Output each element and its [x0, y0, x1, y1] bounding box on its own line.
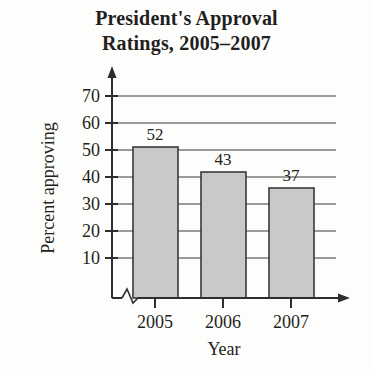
bar-value-2007: 37 — [261, 167, 321, 184]
x-axis-arrow — [338, 294, 350, 303]
x-tick-marks — [155, 298, 291, 308]
bar-value-2006: 43 — [193, 151, 253, 168]
bar-chart-figure: President's Approval Ratings, 2005–2007 — [0, 0, 373, 370]
y-axis-arrow — [108, 66, 117, 78]
ytick-label-40: 40 — [56, 168, 100, 186]
ytick-label-60: 60 — [56, 114, 100, 132]
y-axis-label: Percent approving — [39, 98, 57, 278]
ytick-label-70: 70 — [56, 87, 100, 105]
bar-2006 — [201, 172, 246, 298]
x-axis-label: Year — [112, 340, 336, 358]
ytick-label-30: 30 — [56, 195, 100, 213]
bar-value-2005: 52 — [125, 126, 185, 143]
ytick-label-50: 50 — [56, 141, 100, 159]
bar-2007 — [269, 188, 314, 298]
ytick-label-20: 20 — [56, 222, 100, 240]
xtick-label-2007: 2007 — [251, 313, 331, 331]
bar-2005 — [133, 147, 178, 298]
ytick-label-10: 10 — [56, 249, 100, 267]
